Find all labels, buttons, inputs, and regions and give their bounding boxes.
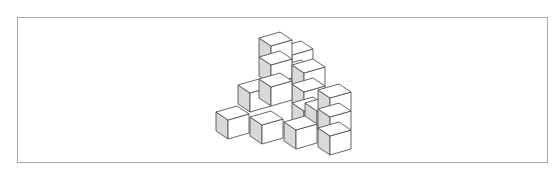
isometric-cubes-diagram [0, 0, 560, 182]
